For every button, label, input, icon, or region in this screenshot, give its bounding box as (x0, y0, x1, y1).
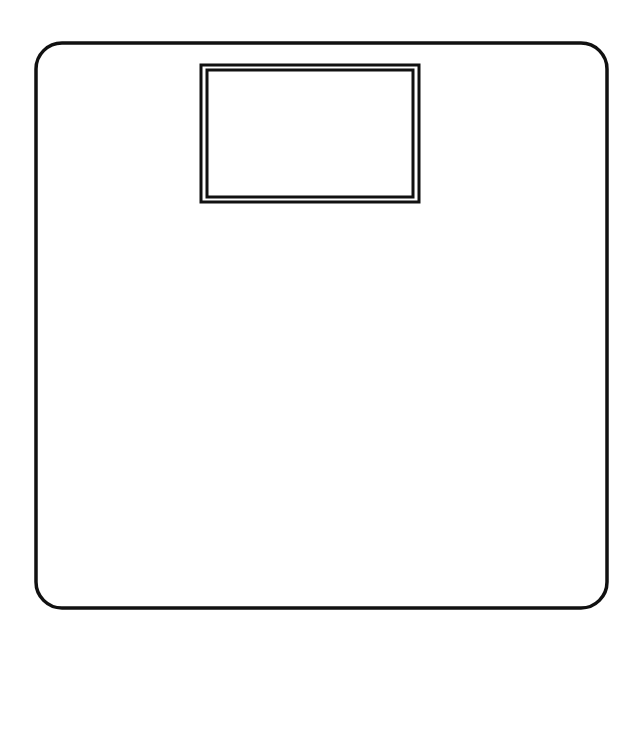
scale-drawing (0, 0, 627, 740)
display-window-inner (207, 70, 413, 197)
display-window-outer (201, 65, 419, 202)
scale-body-outline (36, 43, 607, 608)
